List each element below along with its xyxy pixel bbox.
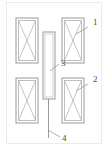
leader-line-4 [48,130,60,137]
drawing-canvas: 1 2 3 4 [0,0,108,146]
reference-label-1: 1 [93,17,98,27]
lower-right-winding-block [62,78,84,123]
upper-right-winding-block [62,18,84,63]
reference-label-3: 3 [61,58,66,68]
reference-label-4: 4 [62,133,67,143]
reference-label-2: 2 [93,74,98,84]
lower-left-winding-block [16,78,38,123]
technical-drawing-figure: 1 2 3 4 [0,0,108,146]
upper-left-winding-block [16,18,38,63]
central-vertical-member [43,32,55,99]
central-member-inner-outline [45,34,53,97]
